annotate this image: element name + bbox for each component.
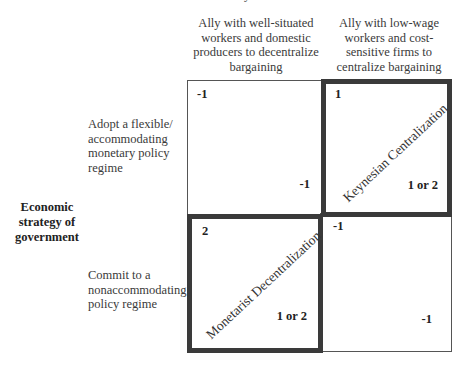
column-header-line: sensitive firms to <box>322 45 456 60</box>
column-header-line: workers and cost- <box>322 31 456 46</box>
payoff-bottom-right: -1 <box>300 177 310 192</box>
cell-nonaccommodating-centralize: -1 -1 <box>320 213 452 352</box>
column-header-line: producers to decentralize <box>188 45 324 60</box>
row-header-line: Commit to a <box>88 268 188 283</box>
axis-label-line: Economic <box>12 200 82 215</box>
column-header-line: Ally with well-situated <box>188 16 324 31</box>
payoff-top-left: -1 <box>197 87 207 102</box>
row-header-line: Adopt a flexible/ <box>88 117 188 132</box>
row-header-nonaccommodating: Commit to a nonaccommodating policy regi… <box>88 268 188 312</box>
partial-top-text: y <box>244 0 250 3</box>
column-header-decentralize: Ally with well-situated workers and dome… <box>188 16 324 74</box>
row-header-line: monetary policy <box>88 146 188 161</box>
column-header-line: centralize bargaining <box>322 60 456 75</box>
axis-label-line: government <box>12 230 82 245</box>
row-header-line: policy regime <box>88 297 188 312</box>
row-header-line: regime <box>88 161 188 176</box>
payoff-bottom-right: -1 <box>422 312 432 327</box>
row-header-line: nonaccommodating <box>88 283 188 298</box>
column-header-centralize: Ally with low-wage workers and cost- sen… <box>322 16 456 74</box>
cell-monetarist-decentralization: 2 1 or 2 Monetarist Decentralization <box>187 214 323 353</box>
row-header-line: accommodating <box>88 132 188 147</box>
axis-label-line: strategy of <box>12 215 82 230</box>
cell-keynesian-centralization: 1 1 or 2 Keynesian Centralization <box>321 79 452 217</box>
cell-flexible-decentralize: -1 -1 <box>187 80 323 216</box>
row-axis-label: Economic strategy of government <box>12 200 82 245</box>
diagonal-label: Monetarist Decentralization <box>203 228 324 343</box>
row-header-accommodating: Adopt a flexible/ accommodating monetary… <box>88 117 188 175</box>
payoff-bottom-right: 1 or 2 <box>277 309 307 324</box>
payoff-top-left: -1 <box>333 219 343 234</box>
payoff-top-left: 1 <box>335 87 341 102</box>
payoff-top-left: 2 <box>202 224 208 239</box>
payoff-bottom-right: 1 or 2 <box>408 178 438 193</box>
column-header-line: workers and domestic <box>188 31 324 46</box>
column-header-line: Ally with low-wage <box>322 16 456 31</box>
column-header-line: bargaining <box>188 60 324 75</box>
